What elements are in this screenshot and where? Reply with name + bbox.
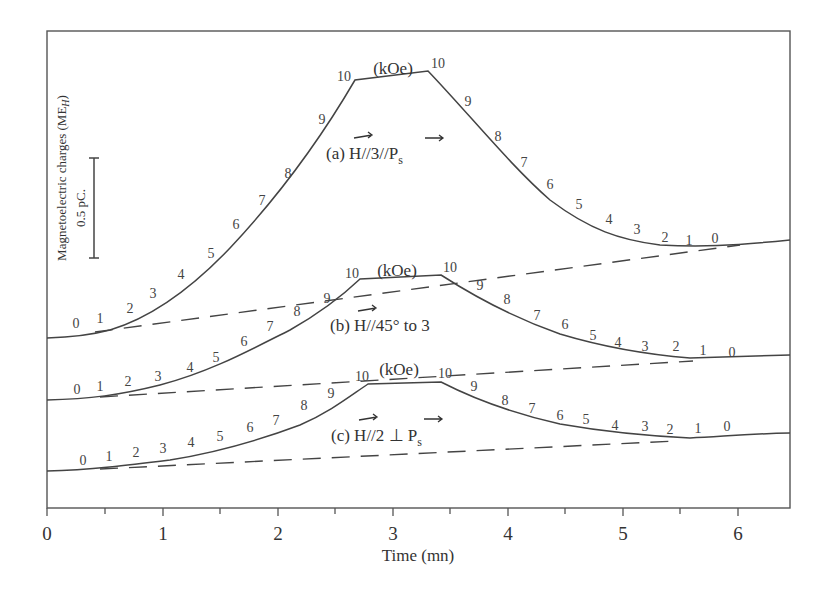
svg-text:0: 0: [712, 231, 719, 246]
field-labels-c: 0 1 2 3 4 5 6 7 8 9 10 10 9 8 7 6 5 4 3 …: [80, 366, 731, 468]
svg-text:5: 5: [213, 350, 220, 365]
svg-text:8: 8: [285, 166, 292, 181]
svg-text:1: 1: [97, 379, 104, 394]
svg-text:(a) H//3//Ps: (a) H//3//Ps: [326, 144, 403, 167]
svg-text:4: 4: [606, 212, 613, 227]
svg-text:5: 5: [208, 246, 215, 261]
scale-bar: 0.5 pC.: [73, 158, 99, 258]
x-axis-label: Time (mn): [382, 546, 455, 565]
svg-text:1: 1: [106, 449, 113, 464]
x-tick-4: 4: [503, 523, 513, 544]
svg-text:4: 4: [178, 267, 185, 282]
svg-text:5: 5: [576, 197, 583, 212]
svg-text:5: 5: [590, 328, 597, 343]
svg-text:6: 6: [233, 217, 240, 232]
x-tick-6: 6: [733, 523, 743, 544]
svg-text:6: 6: [557, 408, 564, 423]
svg-text:1: 1: [97, 311, 104, 326]
svg-text:0: 0: [73, 316, 80, 331]
svg-text:10: 10: [431, 56, 445, 71]
series-label-b: (b) H//45° to 3: [330, 305, 430, 335]
svg-text:0: 0: [80, 453, 87, 468]
svg-text:9: 9: [328, 386, 335, 401]
svg-text:6: 6: [241, 334, 248, 349]
svg-text:3: 3: [642, 339, 649, 354]
svg-text:3: 3: [634, 222, 641, 237]
svg-text:8: 8: [504, 292, 511, 307]
svg-text:1: 1: [686, 233, 693, 248]
x-tick-1: 1: [158, 523, 168, 544]
svg-text:6: 6: [247, 420, 254, 435]
curve-a: [47, 71, 790, 338]
svg-text:2: 2: [662, 230, 669, 245]
unit-label-c: (kOe): [379, 360, 419, 379]
x-tick-2: 2: [273, 523, 283, 544]
svg-text:2: 2: [133, 445, 140, 460]
y-axis-label: Magnetoelectric charges (MEH): [54, 95, 71, 261]
svg-text:9: 9: [477, 278, 484, 293]
svg-text:1: 1: [700, 343, 707, 358]
x-axis-ticks: [47, 508, 738, 516]
svg-text:7: 7: [259, 193, 266, 208]
field-labels-a: 0 1 2 3 4 5 6 7 8 9 10 10 9 8 7 6 5 4 3 …: [73, 56, 719, 331]
svg-text:0: 0: [724, 419, 731, 434]
vector-arrow-icon: [358, 305, 376, 311]
svg-text:0: 0: [729, 345, 736, 360]
unit-label-b: (kOe): [377, 261, 417, 280]
svg-text:7: 7: [534, 308, 541, 323]
svg-text:8: 8: [294, 304, 301, 319]
svg-text:5: 5: [217, 429, 224, 444]
svg-text:2: 2: [125, 374, 132, 389]
curve-c: [47, 382, 790, 471]
svg-text:9: 9: [471, 379, 478, 394]
svg-text:10: 10: [345, 266, 359, 281]
x-tick-0: 0: [42, 523, 52, 544]
baseline-c: [100, 441, 675, 469]
svg-text:6: 6: [562, 317, 569, 332]
unit-label-a: (kOe): [373, 59, 413, 78]
svg-text:4: 4: [615, 335, 622, 350]
svg-text:0: 0: [74, 382, 81, 397]
chart-figure: 0 1 2 3 4 5 6 Time (mn) Magnetoelectric …: [0, 0, 832, 598]
vector-arrow-icon: [425, 135, 443, 141]
vector-arrow-icon: [354, 132, 372, 138]
svg-text:4: 4: [612, 418, 619, 433]
svg-text:5: 5: [583, 412, 590, 427]
svg-text:2: 2: [667, 422, 674, 437]
svg-text:10: 10: [438, 366, 452, 381]
svg-text:9: 9: [319, 112, 326, 127]
x-tick-5: 5: [618, 523, 628, 544]
x-axis-tick-labels: 0 1 2 3 4 5 6: [42, 523, 743, 544]
svg-text:(c) H//2 ⊥ Ps: (c) H//2 ⊥ Ps: [331, 426, 422, 449]
vector-arrow-icon: [424, 416, 442, 422]
svg-text:6: 6: [547, 177, 554, 192]
svg-text:8: 8: [502, 393, 509, 408]
svg-text:2: 2: [673, 339, 680, 354]
svg-text:3: 3: [155, 369, 162, 384]
svg-text:1: 1: [695, 421, 702, 436]
svg-text:3: 3: [150, 286, 157, 301]
scale-bar-label: 0.5 pC.: [73, 189, 88, 227]
svg-text:3: 3: [642, 419, 649, 434]
series-label-a: (a) H//3//Ps: [326, 132, 443, 167]
series-label-c: (c) H//2 ⊥ Ps: [331, 414, 442, 449]
svg-text:7: 7: [529, 401, 536, 416]
svg-text:7: 7: [273, 413, 280, 428]
svg-text:2: 2: [127, 301, 134, 316]
svg-text:4: 4: [188, 435, 195, 450]
svg-text:10: 10: [337, 69, 351, 84]
svg-text:3: 3: [160, 441, 167, 456]
svg-text:4: 4: [187, 360, 194, 375]
svg-text:9: 9: [465, 94, 472, 109]
svg-text:8: 8: [495, 129, 502, 144]
svg-text:10: 10: [443, 260, 457, 275]
svg-text:7: 7: [267, 319, 274, 334]
svg-text:(b) H//45° to 3: (b) H//45° to 3: [330, 316, 430, 335]
svg-text:10: 10: [355, 369, 369, 384]
svg-text:9: 9: [324, 291, 331, 306]
svg-text:8: 8: [301, 398, 308, 413]
x-tick-3: 3: [388, 523, 398, 544]
svg-text:7: 7: [521, 155, 528, 170]
vector-arrow-icon: [359, 414, 377, 420]
